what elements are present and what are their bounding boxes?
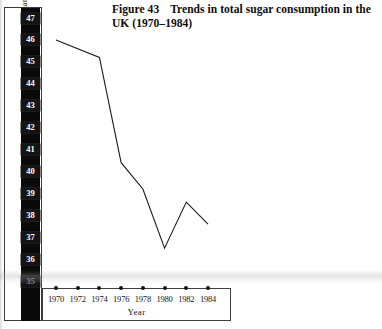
y-tick-42: 42 [21,122,40,133]
y-tick-37: 37 [21,232,40,243]
x-tick-dot-1972 [76,286,80,290]
x-tick-dot-1970 [54,286,58,290]
x-tick-label-1984: 1984 [193,294,223,304]
y-tick-44: 44 [21,78,40,89]
x-tick-dot-1984 [206,286,210,290]
y-tick-35: 35 [21,276,40,287]
y-tick-47: 47 [21,13,40,24]
data-series-line [56,40,208,248]
y-axis-tick-strip: 47464544434241403938373635 [21,8,40,321]
y-tick-36: 36 [21,254,40,265]
y-tick-46: 46 [21,34,40,45]
scan-artifact-edge [0,0,3,329]
y-tick-39: 39 [21,188,40,199]
y-tick-40: 40 [21,166,40,177]
x-tick-dot-1980 [163,286,167,290]
y-tick-38: 38 [21,210,40,221]
y-tick-41: 41 [21,144,40,155]
line-chart-svg [42,7,242,292]
x-axis-label: Year [42,307,231,317]
x-tick-dot-1978 [141,286,145,290]
y-tick-45: 45 [21,56,40,67]
plot-area [42,7,242,292]
figure-container: Figure 43Trends in total sugar consumpti… [0,0,382,329]
y-tick-43: 43 [21,100,40,111]
